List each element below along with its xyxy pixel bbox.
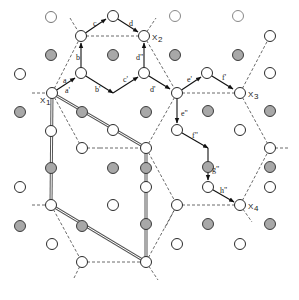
label-a-prime: a' xyxy=(65,86,71,95)
label-d-dprime: d" xyxy=(136,53,143,62)
lattice-diagram: X 1 X 2 X 3 X 4 a a' b b' c c' d d" d' e… xyxy=(0,0,299,300)
label-d: d xyxy=(129,19,133,28)
label-x1-sub: 1 xyxy=(46,98,51,107)
label-e-prime: e' xyxy=(187,75,193,84)
label-x3-sub: 3 xyxy=(254,92,259,101)
dashed-boundaries xyxy=(32,18,290,280)
label-d-prime: d' xyxy=(150,85,156,94)
label-c-prime: c' xyxy=(123,75,129,84)
label-b: b xyxy=(76,53,80,62)
label-a: a xyxy=(63,76,67,85)
label-f-prime: f' xyxy=(222,73,227,82)
label-x2-sub: 2 xyxy=(158,35,163,44)
label-f-dprime: f" xyxy=(192,131,198,140)
label-b-prime: b' xyxy=(95,85,101,94)
label-x4-sub: 4 xyxy=(254,204,259,213)
label-h-dprime: h" xyxy=(220,186,227,195)
label-g-dprime: g" xyxy=(212,165,219,174)
label-e-dprime: e" xyxy=(181,109,188,118)
label-c: c xyxy=(93,19,97,28)
double-line-paths xyxy=(51,93,146,262)
